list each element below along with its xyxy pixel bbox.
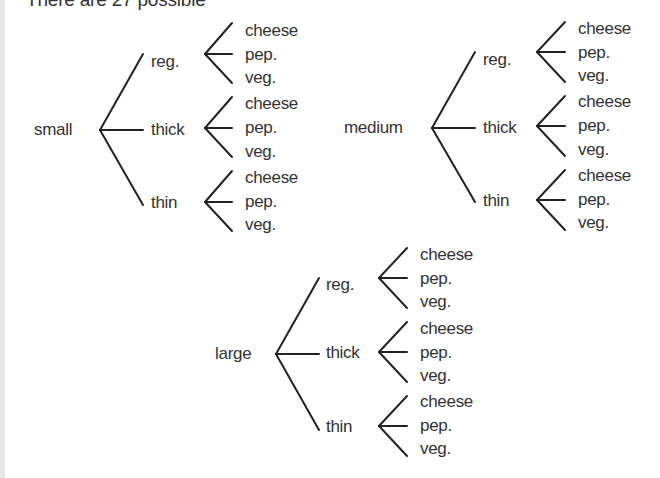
small-reg-topping-fork [205, 23, 232, 83]
crust-label-large-thin: thin [326, 417, 352, 437]
topping-label-medium-thick-pep: pep. [578, 116, 610, 136]
large-size-fork [276, 278, 319, 430]
crust-label-large-reg: reg. [326, 275, 354, 295]
medium-reg-topping-fork [537, 22, 565, 82]
small-thin-topping-fork [205, 171, 232, 231]
topping-label-large-reg-cheese: cheese [420, 245, 473, 265]
large-thick-topping-fork [379, 322, 407, 382]
size-label-large: large [215, 344, 251, 364]
tree-diagram-lines [0, 0, 660, 478]
medium-size-fork [432, 52, 475, 202]
topping-label-small-reg-veg: veg. [245, 68, 276, 88]
topping-label-medium-thin-cheese: cheese [578, 166, 631, 186]
topping-label-small-thick-cheese: cheese [245, 94, 298, 114]
topping-label-medium-reg-pep: pep. [578, 43, 610, 63]
topping-label-small-thin-pep: pep. [245, 192, 277, 212]
topping-label-large-reg-pep: pep. [420, 269, 452, 289]
large-thin-topping-fork [379, 396, 407, 456]
topping-label-medium-thin-veg: veg. [578, 213, 609, 233]
topping-label-medium-thick-veg: veg. [578, 140, 609, 160]
topping-label-small-thin-veg: veg. [245, 215, 276, 235]
large-reg-topping-fork [379, 248, 407, 308]
topping-label-small-thick-pep: pep. [245, 118, 277, 138]
small-thick-topping-fork [205, 97, 232, 157]
medium-thin-topping-fork [537, 170, 565, 230]
topping-label-large-thick-veg: veg. [420, 366, 451, 386]
crust-label-small-reg: reg. [151, 52, 179, 72]
topping-label-medium-reg-veg: veg. [578, 66, 609, 86]
topping-label-medium-reg-cheese: cheese [578, 19, 631, 39]
topping-label-small-reg-pep: pep. [245, 45, 277, 65]
topping-label-large-thick-cheese: cheese [420, 319, 473, 339]
topping-label-small-reg-cheese: cheese [245, 21, 298, 41]
topping-label-medium-thick-cheese: cheese [578, 92, 631, 112]
topping-label-large-reg-veg: veg. [420, 292, 451, 312]
crust-label-small-thin: thin [151, 193, 177, 213]
topping-label-large-thin-cheese: cheese [420, 392, 473, 412]
crust-label-large-thick: thick [326, 343, 359, 363]
crust-label-medium-thin: thin [483, 191, 509, 211]
crust-label-small-thick: thick [151, 120, 184, 140]
topping-label-large-thin-veg: veg. [420, 439, 451, 459]
medium-thick-topping-fork [537, 96, 565, 156]
topping-label-medium-thin-pep: pep. [578, 190, 610, 210]
size-label-small: small [34, 120, 72, 140]
topping-label-large-thick-pep: pep. [420, 343, 452, 363]
topping-label-small-thin-cheese: cheese [245, 168, 298, 188]
crust-label-medium-reg: reg. [483, 50, 511, 70]
topping-label-small-thick-veg: veg. [245, 142, 276, 162]
size-label-medium: medium [344, 118, 403, 138]
small-size-fork [100, 54, 143, 205]
topping-label-large-thin-pep: pep. [420, 416, 452, 436]
crust-label-medium-thick: thick [483, 118, 516, 138]
